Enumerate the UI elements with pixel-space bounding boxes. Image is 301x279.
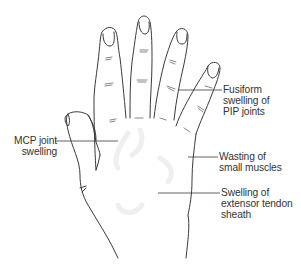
label-line: small muscles	[219, 162, 282, 173]
label-line: Swelling of	[221, 187, 293, 198]
label-line: Wasting of	[219, 151, 282, 162]
label-line: swelling of	[223, 95, 269, 106]
label-line: swelling	[14, 146, 57, 157]
label-muscle-wasting: Wasting of small muscles	[219, 151, 282, 173]
diagram: Fusiform swelling of PIP joints MCP join…	[0, 0, 301, 279]
label-line: sheath	[221, 209, 293, 220]
label-line: extensor tendon	[221, 198, 293, 209]
label-pip-swelling: Fusiform swelling of PIP joints	[223, 84, 269, 118]
label-tendon-sheath: Swelling of extensor tendon sheath	[221, 187, 293, 221]
label-mcp-swelling: MCP joint swelling	[14, 135, 57, 157]
swelling-shading	[116, 130, 171, 213]
label-line: PIP joints	[223, 106, 269, 117]
label-line: Fusiform	[223, 84, 269, 95]
label-line: MCP joint	[14, 135, 57, 146]
